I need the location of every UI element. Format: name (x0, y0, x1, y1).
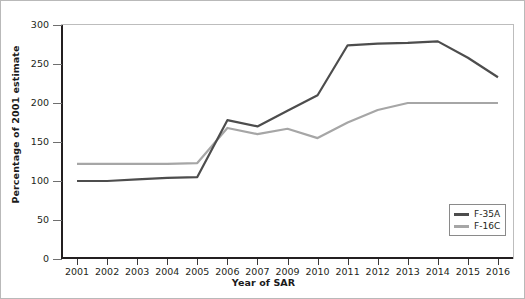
legend-line-icon (454, 213, 469, 216)
legend-item[interactable]: F-35A (454, 208, 500, 220)
legend-item-label: F-16C (474, 221, 500, 231)
series-line-f-16c (77, 103, 498, 164)
legend-line-icon (454, 225, 469, 228)
legend-item-label: F-35A (474, 209, 500, 219)
chart-figure: Percentage of 2001 estimate Year of SAR … (0, 0, 525, 299)
series-line-f-35a (77, 41, 498, 181)
series-lines (1, 1, 525, 299)
legend-item[interactable]: F-16C (454, 220, 500, 232)
chart-legend: F-35AF-16C (449, 204, 506, 236)
